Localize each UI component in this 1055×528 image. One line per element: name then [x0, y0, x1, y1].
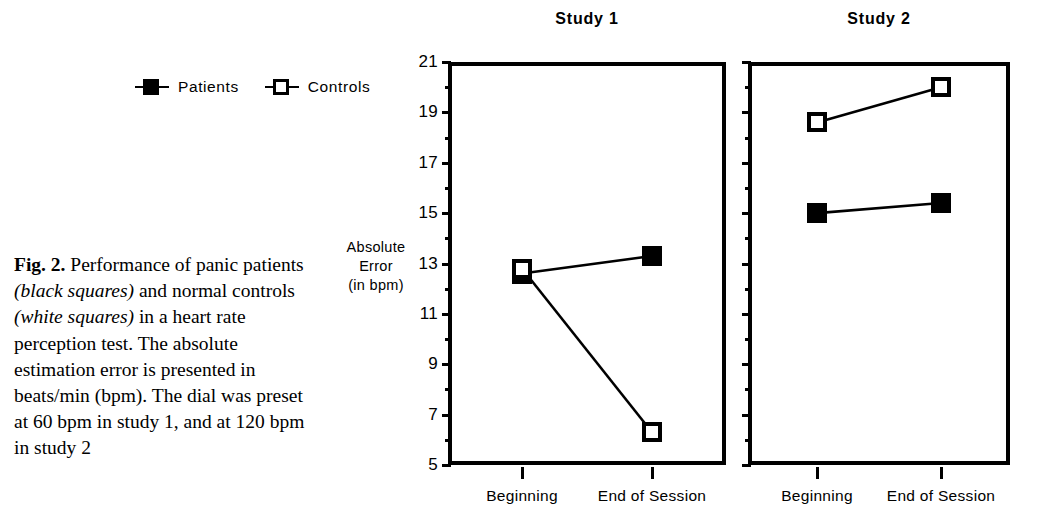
y-tick-label: 5 — [400, 455, 438, 475]
y-tick-label: 21 — [400, 52, 438, 72]
y-tick-label: 9 — [400, 354, 438, 374]
caption-italic-1: (black squares) — [14, 280, 134, 301]
chart-panel-study-1: Study 1 211917151311975BeginningEnd of S… — [448, 0, 726, 528]
legend-item-patients: Patients — [135, 78, 239, 96]
legend-label-controls: Controls — [308, 78, 371, 96]
y-tick-label: 19 — [400, 102, 438, 122]
caption-text-2: and normal controls — [134, 280, 295, 301]
y-axis-title-line-3: (in bpm) — [318, 276, 434, 295]
open-square-icon — [265, 78, 299, 96]
data-point-controls — [642, 422, 662, 442]
data-point-patients — [807, 203, 827, 223]
y-tick-label: 7 — [400, 405, 438, 425]
y-tick-label: 13 — [400, 254, 438, 274]
data-point-patients — [931, 193, 951, 213]
data-point-controls — [512, 259, 532, 279]
series-lines — [748, 0, 1030, 528]
series-lines — [448, 0, 746, 528]
y-tick-label: 15 — [400, 203, 438, 223]
chart-panel-study-2: Study 2 BeginningEnd of Session — [748, 0, 1010, 528]
figure-label: Fig. 2. — [14, 254, 65, 275]
chart-legend: Patients Controls — [135, 78, 370, 96]
filled-square-icon — [135, 78, 169, 96]
data-point-patients — [642, 246, 662, 266]
data-point-controls — [931, 77, 951, 97]
figure-caption: Fig. 2. Performance of panic patients (b… — [14, 252, 314, 462]
caption-italic-2: (white squares) — [14, 306, 134, 327]
data-point-controls — [807, 112, 827, 132]
caption-text-3: in a heart rate perception test. The abs… — [14, 306, 304, 458]
y-tick-label: 11 — [400, 304, 438, 324]
caption-text-1: Performance of panic patients — [65, 254, 303, 275]
legend-item-controls: Controls — [265, 78, 371, 96]
y-tick-label: 17 — [400, 153, 438, 173]
legend-label-patients: Patients — [178, 78, 239, 96]
